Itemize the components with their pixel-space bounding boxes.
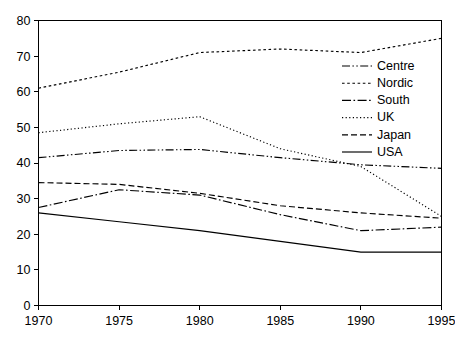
series-line-japan (39, 183, 442, 219)
x-axis-tick-label: 1975 (105, 314, 133, 328)
series-line-south (39, 190, 442, 231)
x-axis-tick-label: 1970 (25, 314, 53, 328)
line-chart: 0102030405060708019701975198019851990199… (0, 0, 455, 344)
y-axis-tick-label: 40 (17, 156, 31, 170)
y-axis-tick-label: 70 (17, 50, 31, 64)
legend-label-japan: Japan (377, 128, 411, 142)
y-axis-tick-label: 30 (17, 192, 31, 206)
y-axis-tick-label: 80 (17, 14, 31, 28)
legend-label-south: South (377, 93, 410, 107)
x-axis-tick-label: 1985 (266, 314, 294, 328)
x-axis-tick-label: 1980 (186, 314, 214, 328)
y-axis-tick-label: 10 (17, 263, 31, 277)
y-axis-tick-label: 50 (17, 121, 31, 135)
x-axis-tick-label: 1995 (428, 314, 455, 328)
x-axis-tick-label: 1990 (347, 314, 375, 328)
chart-canvas: 0102030405060708019701975198019851990199… (0, 0, 455, 344)
y-axis-tick-label: 0 (24, 299, 31, 313)
y-axis-tick-label: 20 (17, 228, 31, 242)
chart-legend: CentreNordicSouthUKJapanUSA (342, 59, 415, 159)
series-line-usa (39, 213, 442, 252)
legend-label-usa: USA (377, 145, 403, 159)
legend-label-uk: UK (377, 110, 395, 124)
legend-label-centre: Centre (377, 59, 415, 73)
y-axis-tick-label: 60 (17, 85, 31, 99)
legend-label-nordic: Nordic (377, 76, 413, 90)
